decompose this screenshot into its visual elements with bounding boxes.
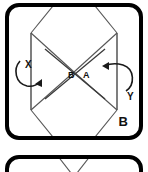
panel-letter-label: B: [119, 115, 128, 128]
diagram-panel-b: B A X Y B: [5, 3, 143, 140]
figure-root: B A X Y B: [0, 0, 148, 172]
rotation-arrow-x-head: [35, 79, 42, 87]
vertex-label-a: A: [83, 71, 90, 80]
rotation-arrow-y-head: [102, 62, 109, 70]
fold-diagram-svg-next: [9, 159, 139, 172]
fold-line-next-right: [77, 159, 91, 172]
fold-line-upper-left: [31, 7, 57, 33]
rotation-arrow-y-curve: [105, 64, 132, 91]
fold-line-diag-upper-right: [74, 33, 117, 72]
diagram-panel-next: [5, 155, 143, 172]
fold-line-lower-left: [31, 110, 57, 136]
fold-line-upper-right: [91, 7, 117, 33]
fold-line-diag-upper-left: [31, 33, 74, 72]
axis-label-y: Y: [127, 92, 134, 102]
fold-line-lower-right: [91, 110, 117, 136]
vertex-label-b: B: [68, 71, 75, 80]
axis-label-x: X: [25, 60, 32, 70]
fold-line-next-left: [57, 159, 71, 172]
